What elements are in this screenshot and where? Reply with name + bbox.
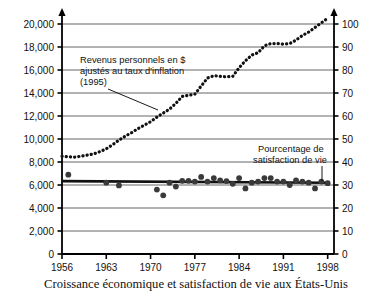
satisfaction-data-point [287,182,293,188]
satisfaction-data-point [224,178,230,184]
right-axis-tick-label: 70 [342,88,354,99]
satisfaction-data-point [179,178,185,184]
left-axis-tick-label: 8,000 [29,157,54,168]
satisfaction-data-point [255,179,261,185]
right-axis-tick-label: 60 [342,111,354,122]
x-axis-tick-label: 1956 [51,262,74,273]
chart-caption: Croissance économique et satisfaction de… [44,277,348,291]
economic-growth-life-satisfaction-chart: 02,0004,0006,0008,00010,00012,00014,0001… [0,0,391,301]
satisfaction-data-point [318,179,324,185]
chart-figure: 02,0004,0006,0008,00010,00012,00014,0001… [0,0,391,301]
right-axis-tick-label: 30 [342,180,354,191]
right-axis-tick-label: 20 [342,203,354,214]
right-axis-tick-label: 50 [342,134,354,145]
satisfaction-data-point [167,180,173,186]
satisfaction-data-point [268,175,274,181]
satisfaction-data-point [103,180,109,186]
x-axis-tick-label: 1998 [317,262,340,273]
satisfaction-data-point [116,183,122,189]
satisfaction-data-point [299,179,305,185]
left-axis-tick-label: 0 [48,249,54,260]
satisfaction-data-point [173,184,179,190]
x-axis-tick-label: 1970 [139,262,162,273]
right-axis-tick-label: 100 [342,19,359,30]
x-axis-tick-label: 1991 [272,262,295,273]
satisfaction-data-point [65,172,71,178]
left-axis-tick-label: 10,000 [23,134,54,145]
income-annotation-line-2: ajustés au taux d'inflation [80,66,184,76]
left-axis-arrow-icon [58,8,65,16]
left-axis-tick-label: 4,000 [29,203,54,214]
left-axis-tick-label: 2,000 [29,226,54,237]
satisfaction-data-point [154,187,160,193]
satisfaction-data-point [217,178,223,184]
left-axis-tick-label: 6,000 [29,180,54,191]
x-axis-tick-label: 1977 [184,262,207,273]
satisfaction-data-point [325,180,331,186]
satisfaction-annotation-line-2: satisfaction de vie [253,155,327,165]
x-axis-tick-label: 1984 [228,262,251,273]
left-axis-tick-label: 16,000 [23,65,54,76]
satisfaction-data-point [205,179,211,185]
satisfaction-data-point [262,175,268,181]
satisfaction-data-point [192,179,198,185]
satisfaction-data-point [293,178,299,184]
right-axis-tick-label: 10 [342,226,354,237]
satisfaction-data-point [306,180,312,186]
left-axis-tick-label: 18,000 [23,42,54,53]
satisfaction-data-point [160,192,166,198]
satisfaction-data-point [211,175,217,181]
satisfaction-data-point [236,175,242,181]
income-annotation-line-1: Revenus personnels en $ [80,55,186,65]
left-axis-tick-label: 14,000 [23,88,54,99]
left-axis-tick-label: 12,000 [23,111,54,122]
x-axis-tick-label: 1963 [95,262,118,273]
right-axis-arrow-icon [330,8,337,16]
satisfaction-data-point [249,180,255,186]
satisfaction-data-point [243,186,249,192]
satisfaction-data-point [198,174,204,180]
right-axis-tick-label: 80 [342,65,354,76]
right-axis-tick-label: 40 [342,157,354,168]
income-annotation-line-3: (1995) [80,77,107,87]
left-axis-tick-label: 20,000 [23,19,54,30]
satisfaction-data-point [186,178,192,184]
right-axis-tick-label: 90 [342,42,354,53]
income-dotted-line [62,18,328,157]
income-annotation-leader-line [108,89,158,110]
satisfaction-data-point [280,179,286,185]
satisfaction-data-point [312,186,318,192]
right-axis-tick-label: 0 [342,249,348,260]
satisfaction-annotation-line-1: Pourcentage de [258,144,324,154]
satisfaction-data-point [230,181,236,187]
satisfaction-data-point [274,179,280,185]
